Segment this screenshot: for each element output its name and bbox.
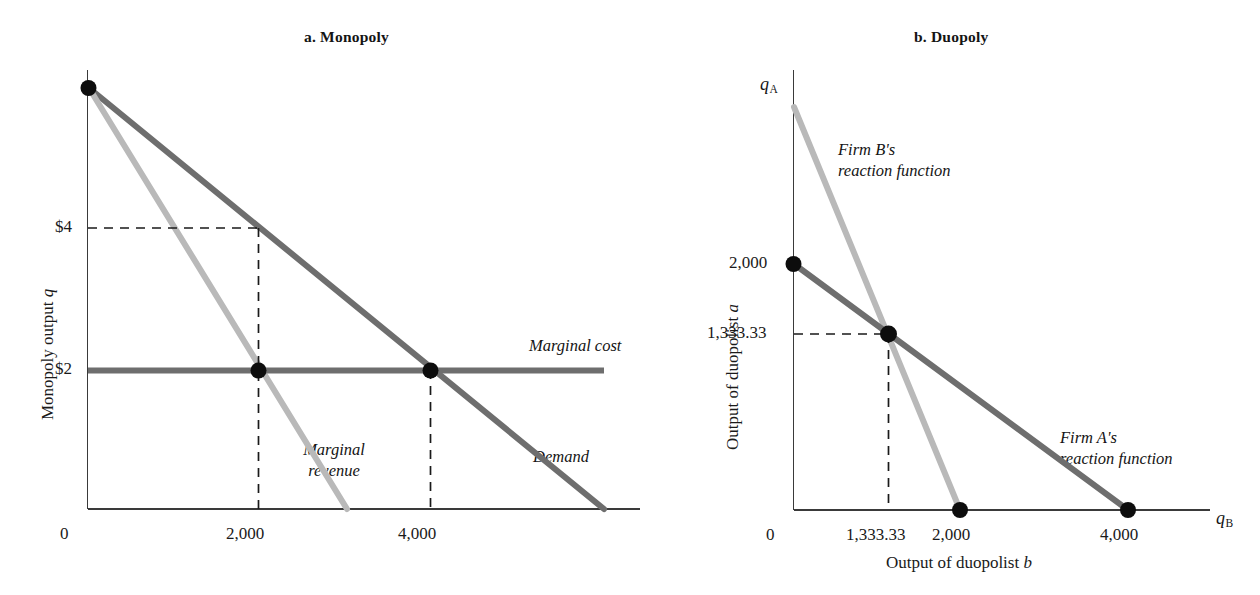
demand-equals-mc-dot (423, 363, 439, 379)
cournot-equilibrium-dot (880, 326, 897, 343)
firm-b-reaction-function-curve (794, 107, 960, 510)
panel-b-axes (794, 70, 1211, 510)
mr-equals-mc-dot (251, 363, 267, 379)
panel-a-curves (88, 88, 604, 509)
panel-b-guides (794, 334, 889, 510)
marginal-revenue-curve (89, 88, 347, 509)
demand-intercept-dot (81, 80, 97, 96)
firm-a-intercept-dot (786, 256, 802, 272)
firm-b-x-intercept-dot (952, 502, 968, 518)
panel-a-axes (88, 70, 641, 509)
firm-a-reaction-function-curve (794, 264, 1128, 510)
panel-b-curves (794, 107, 1128, 510)
plot-graphics (0, 0, 1260, 595)
firm-a-x-intercept-dot (1120, 502, 1136, 518)
figure-canvas: a. Monopoly Monopoly output q $4 $2 0 2,… (0, 0, 1260, 595)
demand-curve (89, 88, 604, 509)
